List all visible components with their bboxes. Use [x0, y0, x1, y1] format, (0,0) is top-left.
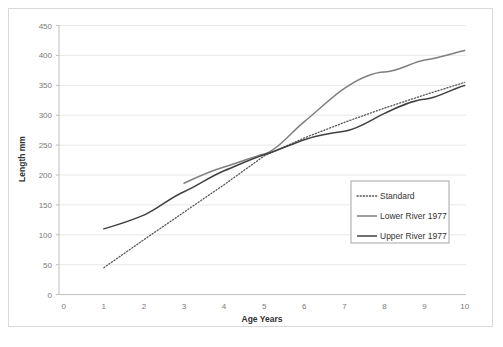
- x-tick-label: 4: [222, 302, 227, 311]
- x-tick-label: 2: [142, 302, 147, 311]
- y-tick-label: 0: [48, 291, 53, 300]
- x-tick-label: 7: [342, 302, 347, 311]
- chart-legend: Standard Lower River 1977 Upper River 19…: [351, 181, 449, 243]
- y-tick-label: 100: [39, 231, 53, 240]
- figure-caption: [10, 334, 493, 346]
- x-tick-label: 3: [182, 302, 187, 311]
- y-tick-label: 300: [39, 111, 53, 120]
- y-tick-label: 250: [39, 141, 53, 150]
- x-tick-label: 1: [102, 302, 107, 311]
- x-tick-label: 9: [422, 302, 427, 311]
- x-tick-label: 10: [460, 302, 469, 311]
- line-chart: 450 400 350 300 250 200 150 100 50 0 0 1…: [9, 9, 492, 326]
- chart-frame: 450 400 350 300 250 200 150 100 50 0 0 1…: [8, 8, 493, 327]
- legend-label-standard: Standard: [380, 191, 415, 201]
- legend-label-upper-river: Upper River 1977: [380, 231, 447, 241]
- x-tick-label: 6: [302, 302, 307, 311]
- y-tick-label: 350: [39, 81, 53, 90]
- y-tick-label: 150: [39, 201, 53, 210]
- legend-label-lower-river: Lower River 1977: [380, 211, 447, 221]
- y-axis-title: Length mm: [17, 136, 27, 182]
- y-tick-label: 200: [39, 171, 53, 180]
- x-tick-labels: 0 1 2 3 4 5 6 7 8 9 10: [61, 302, 469, 311]
- plot-background: [59, 25, 466, 294]
- x-tick-label: 8: [382, 302, 387, 311]
- figure-root: 450 400 350 300 250 200 150 100 50 0 0 1…: [0, 0, 503, 347]
- y-tick-label: 400: [39, 51, 53, 60]
- y-tick-labels: 450 400 350 300 250 200 150 100 50 0: [39, 22, 53, 300]
- x-axis-title: Age Years: [242, 314, 283, 324]
- x-tick-label: 5: [262, 302, 267, 311]
- x-tick-label: 0: [61, 302, 66, 311]
- y-tick-label: 50: [43, 261, 52, 270]
- y-tick-label: 450: [39, 22, 53, 31]
